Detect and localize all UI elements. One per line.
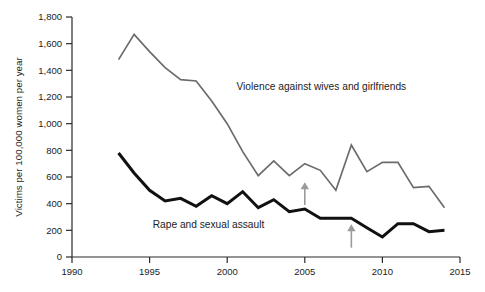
arrow-violence-2005 (301, 182, 309, 205)
x-axis-tick-label: 2015 (449, 266, 470, 277)
y-axis-tick-label: 400 (46, 198, 62, 209)
x-axis-tick-marks (72, 257, 460, 263)
y-axis-tick-label: 1,400 (38, 65, 62, 76)
arrow-rape-2008 (347, 224, 355, 247)
y-axis-tick-label: 1,200 (38, 91, 62, 102)
y-axis-tick-label: 1,000 (38, 118, 62, 129)
arrow-head (301, 182, 309, 189)
arrow-head (347, 224, 355, 231)
x-axis-tick-label: 1995 (139, 266, 160, 277)
series-inline-label-rape: Rape and sexual assault (153, 219, 265, 230)
x-axis-tick-labels: 199019952000200520102015 (61, 266, 470, 277)
series-inline-labels-group: Violence against wives and girlfriendsRa… (153, 81, 407, 230)
y-axis-tick-label: 800 (46, 145, 62, 156)
axis-lines (72, 17, 460, 257)
x-axis-tick-label: 2005 (294, 266, 315, 277)
x-axis-tick-label: 2000 (217, 266, 238, 277)
chart-container: 02004006008001,0001,2001,4001,6001,800 1… (0, 0, 485, 292)
annotations-group (301, 182, 356, 247)
y-axis-tick-label: 600 (46, 171, 62, 182)
x-axis-tick-label: 2010 (372, 266, 393, 277)
y-axis-tick-label: 200 (46, 225, 62, 236)
axes-group: 02004006008001,0001,2001,4001,6001,800 1… (38, 11, 470, 277)
y-axis-tick-label: 1,600 (38, 38, 62, 49)
y-axis-title-group: Victims per 100,000 women per year (13, 57, 24, 217)
y-axis-tick-label: 1,800 (38, 11, 62, 22)
y-axis-tick-label: 0 (57, 251, 62, 262)
series-line-violence (119, 34, 445, 207)
series-inline-label-violence: Violence against wives and girlfriends (237, 81, 407, 92)
y-axis-tick-labels: 02004006008001,0001,2001,4001,6001,800 (38, 11, 62, 262)
line-chart: 02004006008001,0001,2001,4001,6001,800 1… (0, 0, 485, 292)
y-axis-tick-marks (66, 17, 72, 257)
series-group (119, 34, 445, 237)
y-axis-title: Victims per 100,000 women per year (13, 57, 24, 217)
x-axis-tick-label: 1990 (61, 266, 82, 277)
